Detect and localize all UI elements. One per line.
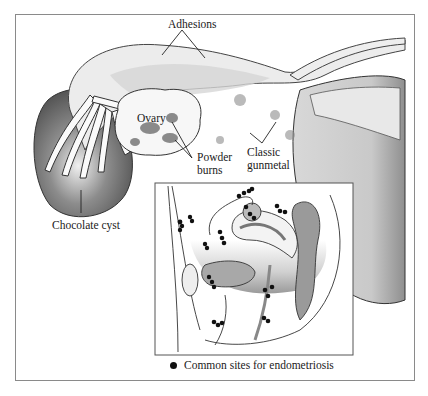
label-powder-burns-2: burns (197, 164, 223, 176)
anatomy-illustration (0, 0, 428, 396)
label-classic-2: gunmetal (247, 159, 290, 171)
label-classic-1: Classic (247, 146, 280, 158)
endometriosis-figure: Adhesions Ovary Powder burns Classic gun… (0, 0, 428, 396)
label-ovary: Ovary (137, 112, 166, 124)
legend-dot-icon (170, 362, 177, 369)
label-powder-burns-1: Powder (197, 151, 232, 163)
label-adhesions: Adhesions (168, 18, 217, 30)
legend: Common sites for endometriosis (170, 359, 334, 371)
legend-text: Common sites for endometriosis (184, 359, 334, 371)
label-chocolate-cyst: Chocolate cyst (52, 219, 120, 231)
gunmetal-lesions (216, 94, 295, 144)
